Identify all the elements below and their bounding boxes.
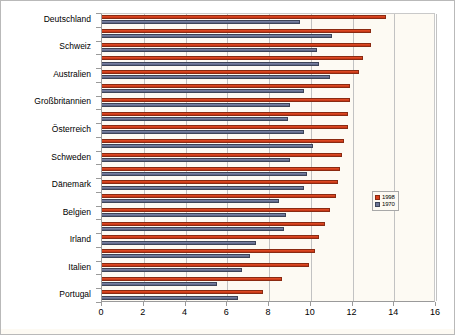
bar-1998 [102, 290, 263, 294]
x-axis-tick [352, 302, 353, 306]
bar-1970 [102, 62, 319, 66]
y-axis-label: Deutschland [44, 15, 91, 24]
x-axis-tick [185, 302, 186, 306]
bar-1998 [102, 153, 342, 157]
bar-group [102, 28, 434, 42]
bar-group [102, 83, 434, 97]
legend-entry-1970: 1970 [375, 201, 395, 208]
bar-group [102, 234, 434, 248]
x-axis-label: 6 [224, 307, 229, 317]
x-axis-label: 0 [98, 307, 103, 317]
bar-1970 [102, 296, 238, 300]
bar-1998 [102, 277, 282, 281]
chart-legend: 1998 1970 [372, 191, 399, 211]
legend-label-1998: 1998 [382, 194, 395, 201]
bar-1970 [102, 117, 288, 121]
bar-1998 [102, 167, 340, 171]
bar-1970 [102, 34, 332, 38]
bar-1970 [102, 254, 250, 258]
bar-1998 [102, 98, 350, 102]
x-axis-tick [226, 302, 227, 306]
bar-1970 [102, 48, 317, 52]
x-axis-tick [393, 302, 394, 306]
bar-1998 [102, 208, 330, 212]
bar-group [102, 124, 434, 138]
bar-group [102, 275, 434, 289]
bar-1970 [102, 89, 304, 93]
y-axis-label: Australien [53, 70, 91, 79]
bar-group [102, 220, 434, 234]
x-axis: 0246810121416 [101, 302, 435, 322]
bar-chart: DeutschlandSchweizAustralienGroßbritanni… [0, 0, 455, 335]
bar-1970 [102, 282, 217, 286]
bar-1998 [102, 56, 363, 60]
x-axis-label: 12 [346, 307, 356, 317]
bar-1970 [102, 20, 300, 24]
x-axis-tick [435, 302, 436, 306]
y-axis-category-labels: DeutschlandSchweizAustralienGroßbritanni… [0, 13, 97, 302]
bottom-strip [1, 329, 454, 334]
bar-1970 [102, 268, 242, 272]
bar-group [102, 55, 434, 69]
gridline [436, 14, 437, 301]
bar-1970 [102, 213, 286, 217]
bar-group [102, 289, 434, 303]
bar-1998 [102, 43, 371, 47]
bar-group [102, 97, 434, 111]
x-axis-label: 4 [182, 307, 187, 317]
bar-group [102, 152, 434, 166]
x-axis-label: 16 [430, 307, 440, 317]
y-axis-label: Portugal [59, 290, 91, 299]
x-axis-label: 10 [305, 307, 315, 317]
bar-1998 [102, 112, 348, 116]
x-axis-tick [310, 302, 311, 306]
x-axis-tick [268, 302, 269, 306]
bar-1998 [102, 15, 386, 19]
y-axis-label: Dänemark [52, 180, 91, 189]
bar-1970 [102, 130, 304, 134]
bar-1970 [102, 186, 304, 190]
x-axis-tick [143, 302, 144, 306]
bar-group [102, 42, 434, 56]
bar-1970 [102, 199, 279, 203]
y-axis-label: Irland [70, 235, 91, 244]
bar-1970 [102, 172, 307, 176]
x-axis-label: 8 [265, 307, 270, 317]
bar-1998 [102, 194, 336, 198]
bar-1970 [102, 75, 330, 79]
bar-1970 [102, 241, 256, 245]
bar-1998 [102, 29, 371, 33]
y-axis-label: Belgien [63, 208, 91, 217]
bar-1970 [102, 103, 290, 107]
x-axis-tick [101, 302, 102, 306]
bar-group [102, 165, 434, 179]
bar-1998 [102, 263, 309, 267]
bar-group [102, 262, 434, 276]
bar-1998 [102, 249, 315, 253]
bar-1998 [102, 125, 348, 129]
bar-1998 [102, 84, 350, 88]
bar-group [102, 110, 434, 124]
y-axis-label: Schweiz [59, 42, 91, 51]
legend-swatch-1998 [375, 195, 380, 200]
legend-swatch-1970 [375, 202, 380, 207]
x-axis-label: 14 [388, 307, 398, 317]
x-axis-label: 2 [140, 307, 145, 317]
bar-1970 [102, 158, 290, 162]
bar-1998 [102, 139, 344, 143]
bar-1998 [102, 180, 338, 184]
legend-entry-1998: 1998 [375, 194, 395, 201]
y-axis-label: Italien [68, 263, 91, 272]
y-axis-label: Großbritannien [34, 97, 91, 106]
bar-group [102, 138, 434, 152]
legend-label-1970: 1970 [382, 201, 395, 208]
bar-1970 [102, 144, 313, 148]
bar-group [102, 69, 434, 83]
y-axis-label: Schweden [51, 153, 91, 162]
bar-group [102, 14, 434, 28]
bars-layer [102, 14, 434, 301]
bar-1998 [102, 235, 319, 239]
y-axis-label: Österreich [52, 125, 91, 134]
bar-1998 [102, 222, 325, 226]
bar-1998 [102, 70, 359, 74]
